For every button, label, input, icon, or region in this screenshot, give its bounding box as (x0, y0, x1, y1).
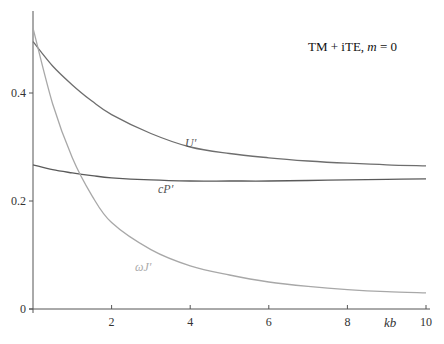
series-lines (33, 28, 426, 293)
x-tick-label: 10 (420, 315, 432, 329)
line-chart: 00.20.4 246810 kb TM + iTE, m = 0 U′ cP′… (0, 0, 444, 344)
x-tick-label: 2 (109, 315, 115, 329)
series-label-omega-j: ωJ′ (135, 260, 152, 274)
chart-annotation: TM + iTE, m = 0 (308, 39, 397, 54)
series-cp-prime (33, 165, 426, 181)
series-label-u: U′ (185, 136, 197, 150)
axes (29, 11, 430, 313)
y-ticks: 00.20.4 (11, 86, 33, 316)
series-omega-j-prime (33, 28, 426, 293)
series-label-cp: cP′ (158, 182, 174, 196)
y-tick-label: 0 (20, 302, 26, 316)
x-axis-title: kb (384, 315, 397, 330)
x-tick-label: 8 (344, 315, 350, 329)
y-tick-label: 0.2 (11, 194, 26, 208)
annotation-suffix: = 0 (377, 39, 397, 54)
annotation-prefix: TM + iTE, (308, 39, 367, 54)
series-u-prime (33, 42, 426, 166)
annotation-var: m (367, 39, 376, 54)
y-tick-label: 0.4 (11, 86, 26, 100)
x-tick-label: 4 (187, 315, 193, 329)
x-tick-label: 6 (266, 315, 272, 329)
